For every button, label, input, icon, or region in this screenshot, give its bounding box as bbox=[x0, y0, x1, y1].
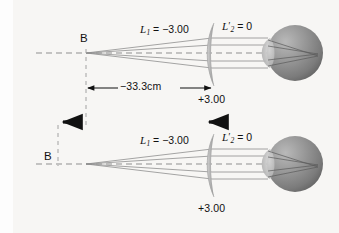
bottom-lens-power-label: +3.00 bbox=[198, 203, 225, 214]
bottom-exit-vergence-value: 0 bbox=[246, 131, 252, 143]
top-lens-power-label: +3.00 bbox=[198, 94, 225, 105]
top-exit-vergence-value: 0 bbox=[246, 20, 252, 32]
top-cornea bbox=[262, 38, 275, 68]
top-object-point-label: B bbox=[80, 33, 88, 45]
top-incident-vergence-label: L1 = −3.00 bbox=[140, 24, 189, 36]
bottom-incident-vergence-equals: = bbox=[153, 134, 159, 146]
top-exit-vergence-label: L′2 = 0 bbox=[222, 21, 252, 33]
top-exit-vergence-prime: ′ bbox=[228, 20, 230, 31]
bottom-exit-vergence-equals: = bbox=[237, 131, 243, 143]
top-exit-vergence-equals: = bbox=[237, 20, 243, 32]
top-incident-vergence-value: −3.00 bbox=[162, 23, 189, 35]
bottom-cornea bbox=[262, 149, 275, 179]
optical-diagram-figure: B L1 = −3.00 L′2 = 0 −33.3cm +3.00 B L1 … bbox=[0, 0, 339, 233]
top-eye-globe bbox=[267, 25, 323, 81]
bottom-eye-globe bbox=[267, 136, 323, 192]
bottom-incident-vergence-label: L1 = −3.00 bbox=[140, 135, 189, 147]
bottom-incident-vergence-value: −3.00 bbox=[162, 134, 189, 146]
bottom-object-point-label: B bbox=[44, 151, 52, 163]
object-distance-label: −33.3cm bbox=[120, 81, 161, 92]
bottom-exit-vergence-prime: ′ bbox=[228, 131, 230, 142]
top-incident-vergence-equals: = bbox=[153, 23, 159, 35]
bottom-exit-vergence-label: L′2 = 0 bbox=[222, 132, 252, 144]
